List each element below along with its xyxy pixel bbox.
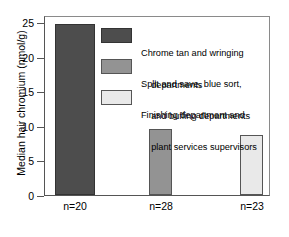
y-tick-label-15: 15 [12,86,34,98]
legend-swatch-finishing [101,90,132,105]
y-tick-mark-0 [37,196,44,197]
y-tick-label-20: 20 [12,52,34,64]
y-tick-label-0: 0 [12,190,34,202]
legend: Chrome tan and wringing departments Spli… [101,27,257,120]
x-tick-label-1: n=28 [149,200,173,212]
x-tick-label-0: n=20 [63,200,87,212]
y-tick-label-5: 5 [12,155,34,167]
legend-label-finishing: Finishing department and plant services … [141,89,257,174]
legend-item-split-save: Split and save, blue sort, and buffing d… [101,58,257,82]
y-tick-label-10: 10 [12,121,34,133]
legend-swatch-chrome-tan [101,28,132,43]
y-tick-mark-5 [37,161,44,162]
y-tick-mark-20 [37,58,44,59]
legend-item-chrome-tan: Chrome tan and wringing departments [101,27,257,51]
bar-chrome-tan-and-wringing [55,24,94,195]
legend-item-finishing: Finishing department and plant services … [101,89,257,113]
chart-figure: Median hair chromium (nmol/g) 0 5 10 15 … [0,0,289,237]
legend-label-line2: plant services supervisors [141,142,257,153]
legend-swatch-split-save [101,59,132,74]
y-tick-label-25: 25 [12,17,34,29]
y-tick-mark-15 [37,92,44,93]
y-tick-mark-25 [37,23,44,24]
x-tick-label-2: n=23 [240,200,264,212]
legend-label-line1: Finishing department and [141,110,257,121]
y-tick-mark-10 [37,127,44,128]
